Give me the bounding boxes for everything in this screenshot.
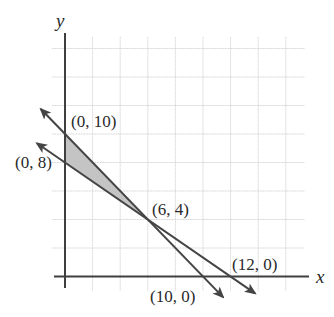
point-label-0-8: (0, 8) [15,153,52,172]
point-label-10-0: (10, 0) [150,287,195,306]
point-label-0-10: (0, 10) [71,112,116,131]
line-2x-plus-3y-eq-24 [37,143,255,293]
y-axis-label: y [54,10,65,31]
point-label-12-0: (12, 0) [232,255,277,274]
point-label-6-4: (6, 4) [152,200,189,219]
linear-inequality-graph: y x (0, 10) (0, 8) (6, 4) (12, 0) (10, 0… [0,0,334,317]
line-x-plus-y-eq-10 [41,109,223,297]
x-axis-label: x [315,266,325,287]
